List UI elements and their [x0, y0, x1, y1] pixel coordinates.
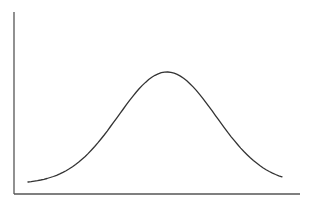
bell-curve-line — [28, 72, 282, 182]
chart — [0, 0, 314, 202]
